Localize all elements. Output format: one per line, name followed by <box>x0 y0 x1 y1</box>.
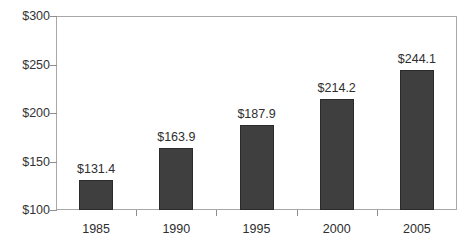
y-axis-tick-mark <box>50 16 57 17</box>
bar-value-label: $131.4 <box>77 162 115 176</box>
y-axis-tick-mark <box>50 210 57 211</box>
x-axis-tick-mark <box>377 210 378 216</box>
y-axis-tick-label: $250 <box>6 58 50 72</box>
x-axis-tick-mark <box>216 210 217 216</box>
x-axis-category-label: 2000 <box>323 222 351 236</box>
bar <box>400 70 434 210</box>
x-axis-category-label: 1995 <box>243 222 271 236</box>
y-axis-tick-mark <box>50 113 57 114</box>
bar-value-label: $214.2 <box>318 81 356 95</box>
bar <box>159 148 193 210</box>
bar-chart: $100$150$200$250$300 $131.4$163.9$187.9$… <box>0 0 474 251</box>
bar-value-label: $187.9 <box>237 107 275 121</box>
y-axis-tick-label: $300 <box>6 9 50 23</box>
x-axis-tick-mark <box>297 210 298 216</box>
x-axis-tick-mark <box>136 210 137 216</box>
x-axis-category-label: 2005 <box>403 222 431 236</box>
x-axis-category-label: 1990 <box>162 222 190 236</box>
y-axis-tick-label: $100 <box>6 203 50 217</box>
bar <box>320 99 354 210</box>
x-axis-category-label: 1985 <box>82 222 110 236</box>
y-axis-tick-mark <box>50 65 57 66</box>
bar-value-label: $244.1 <box>398 52 436 66</box>
y-axis-tick-mark <box>50 162 57 163</box>
bar-value-label: $163.9 <box>157 130 195 144</box>
bar <box>79 180 113 210</box>
bar <box>240 125 274 210</box>
y-axis-tick-label: $200 <box>6 106 50 120</box>
y-axis-tick-label: $150 <box>6 155 50 169</box>
